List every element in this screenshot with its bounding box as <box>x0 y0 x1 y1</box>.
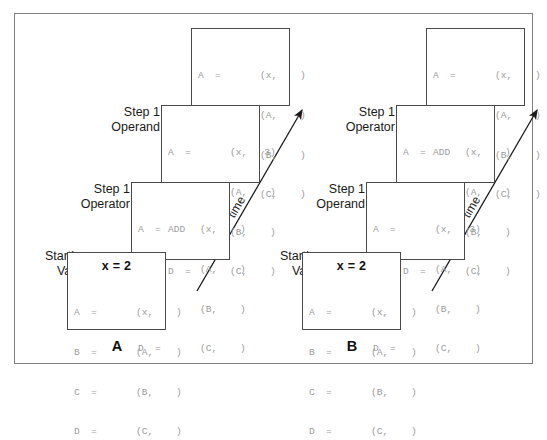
code-lhs: A = <box>74 306 104 319</box>
code-lhs: A = <box>168 146 198 159</box>
code-rhs: (x, ) <box>260 69 294 82</box>
code-op: ADD <box>433 146 465 159</box>
code-lhs: B = <box>74 346 104 359</box>
panel-a-starting-value-code: A =(x, ) B =(A, ) C =(B, ) D =(C, ) <box>74 280 170 440</box>
code-rhs: (x, ) <box>371 306 405 319</box>
code-rhs: (x, ) <box>465 146 499 159</box>
code-op: ADD <box>168 223 200 236</box>
code-rhs: (A, ) <box>435 263 469 276</box>
code-rhs: (B, ) <box>200 303 234 316</box>
code-rhs: (x, 3) <box>230 146 264 159</box>
code-rhs: (A, ) <box>200 263 234 276</box>
code-rhs: (x, 3) <box>435 223 469 236</box>
code-rhs: (x, ) <box>495 69 529 82</box>
code-rhs: (A, ) <box>230 186 264 199</box>
panel-b-starting-value-box: x = 2 A =(x, ) B =(A, ) C =(B, ) D =(C, … <box>302 252 401 330</box>
panel-b-starting-value-code: A =(x, ) B =(A, ) C =(B, ) D =(C, ) <box>309 280 405 440</box>
code-lhs: D = <box>309 425 339 438</box>
code-rhs: (A, ) <box>465 186 499 199</box>
code-lhs: A = <box>138 223 168 236</box>
code-lhs: A = <box>403 146 433 159</box>
panel-a-step1-operator-label: Step 1 Operator <box>66 182 130 211</box>
panel-a-step1-operand-label: Step 1 Operand <box>96 105 160 134</box>
code-lhs: D = <box>74 425 104 438</box>
code-rhs: (x, ) <box>136 306 170 319</box>
panel-b-step1-operator-label: Step 1 Operator <box>331 105 395 134</box>
panel-a-step1-operand-box: A =(x, 3) B =(A, ) C =(B, ) D =(C, ) <box>161 105 260 183</box>
panel-b-step1-operand-box: A =(x, 3) B =(A, ) C =(B, ) D =(C, ) <box>366 182 465 260</box>
code-rhs: (C, ) <box>136 425 170 438</box>
panel-a-starting-value-header: x = 2 <box>68 259 165 273</box>
panel-a-step1-operator-box: A =ADD(x, ) B =(A, ) C =(B, ) D =(C, ) <box>131 182 230 260</box>
panel-b-starting-value-header: x = 2 <box>303 259 400 273</box>
code-rhs: (A, ) <box>495 109 529 122</box>
code-rhs: (B, ) <box>371 386 405 399</box>
panel-a-starting-value-box: x = 2 A =(x, ) B =(A, ) C =(B, ) D =(C, … <box>67 252 166 330</box>
panel-a-top-result-box: A =(x, ) B =(A, ) C =(B, ) D =(C, ) <box>191 28 290 106</box>
code-lhs: A = <box>373 223 403 236</box>
panel-b-step1-operand-label: Step 1 Operand <box>301 182 365 211</box>
code-rhs: (C, ) <box>371 425 405 438</box>
code-lhs: B = <box>309 346 339 359</box>
code-lhs: A = <box>198 69 228 82</box>
code-rhs: (C, ) <box>435 342 469 355</box>
code-rhs: (B, ) <box>435 303 469 316</box>
code-rhs: (A, ) <box>260 109 294 122</box>
code-rhs: (A, ) <box>136 346 170 359</box>
code-rhs: (A, ) <box>371 346 405 359</box>
code-lhs: C = <box>74 386 104 399</box>
code-rhs: (B, ) <box>136 386 170 399</box>
code-rhs: (x, ) <box>200 223 234 236</box>
code-rhs: (C, ) <box>200 342 234 355</box>
code-lhs: C = <box>309 386 339 399</box>
panel-b-step1-operator-box: A =ADD(x, ) B =(A, ) C =(B, ) D =(C, ) <box>396 105 495 183</box>
code-lhs: A = <box>309 306 339 319</box>
panel-b-top-result-box: A =(x, ) B =(A, ) C =(B, ) D =(C, ) <box>426 28 525 106</box>
code-lhs: A = <box>433 69 463 82</box>
